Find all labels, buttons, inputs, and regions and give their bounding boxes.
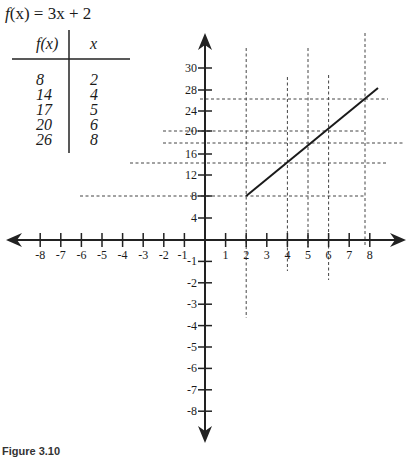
function-line-group [246, 88, 378, 196]
x-tick-label: 5 [305, 248, 311, 262]
x-tick-label: -1 [177, 248, 187, 262]
x-tick-label: -7 [56, 248, 66, 262]
dashed-guides [80, 33, 403, 318]
x-tick-label: 8 [367, 248, 373, 262]
x-tick-label: 2 [243, 248, 249, 262]
x-tick-label: 4 [284, 248, 290, 262]
y-tick-label: 4 [191, 211, 197, 225]
figure-caption: Figure 3.10 [2, 445, 60, 457]
y-tick-label: 28 [185, 83, 197, 97]
axes [6, 33, 406, 443]
y-tick-label: 20 [185, 124, 197, 138]
y-tick-label: 12 [185, 168, 197, 182]
x-tick-label: -2 [159, 248, 169, 262]
x-tick-label: -5 [97, 248, 107, 262]
x-tick-label: -3 [138, 248, 148, 262]
x-tick-label: 1 [223, 248, 229, 262]
x-ticks: -8-7-6-5-4-3-2-112345678 [35, 233, 373, 262]
x-tick-label: -4 [118, 248, 128, 262]
y-tick-label: -5 [187, 340, 197, 354]
y-tick-label: -8 [187, 404, 197, 418]
x-tick-label: 3 [264, 248, 270, 262]
y-tick-label: -6 [187, 361, 197, 375]
y-tick-label: 24 [185, 104, 197, 118]
x-tick-label: -8 [35, 248, 45, 262]
x-tick-label: 7 [346, 248, 352, 262]
y-tick-label: 16 [185, 147, 197, 161]
y-tick-label: 8 [191, 189, 197, 203]
x-tick-label: -6 [76, 248, 86, 262]
y-tick-label: -3 [187, 297, 197, 311]
x-tick-label: 6 [326, 248, 332, 262]
function-line [246, 88, 378, 196]
y-tick-label: -2 [187, 276, 197, 290]
y-tick-label: -4 [187, 319, 197, 333]
y-tick-label: 30 [185, 61, 197, 75]
y-tick-label: -1 [187, 254, 197, 268]
y-tick-label: -7 [187, 383, 197, 397]
